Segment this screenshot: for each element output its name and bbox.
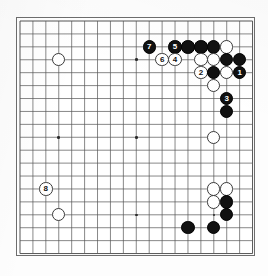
- go-stone-white[interactable]: [220, 40, 233, 53]
- star-point: [135, 136, 138, 139]
- go-stone-white[interactable]: [194, 53, 207, 66]
- go-stone-white[interactable]: [207, 182, 220, 195]
- go-board[interactable]: 75642138: [16, 17, 255, 256]
- go-stone-black[interactable]: [207, 40, 220, 53]
- go-stone-black[interactable]: [220, 195, 233, 208]
- go-stone-white-move-8[interactable]: 8: [39, 182, 52, 195]
- move-number-label: 3: [224, 94, 228, 102]
- star-point: [57, 136, 60, 139]
- move-number-label: 5: [173, 42, 177, 50]
- go-diagram-container: 75642138: [0, 0, 268, 276]
- move-number-label: 2: [199, 68, 203, 76]
- go-stone-white[interactable]: [220, 182, 233, 195]
- go-stone-white[interactable]: [207, 195, 220, 208]
- move-number-label: 1: [237, 68, 241, 76]
- star-point: [135, 58, 138, 61]
- go-stone-white-move-4[interactable]: 4: [168, 53, 181, 66]
- move-number-label: 4: [173, 55, 177, 63]
- star-point: [135, 214, 138, 217]
- star-point: [213, 214, 216, 217]
- go-stone-black-move-7[interactable]: 7: [143, 40, 156, 53]
- go-stone-black[interactable]: [181, 221, 194, 234]
- move-number-label: 7: [147, 42, 151, 50]
- move-number-label: 8: [44, 184, 48, 192]
- move-number-label: 6: [160, 55, 164, 63]
- go-stone-black[interactable]: [181, 40, 194, 53]
- go-stone-white-move-2[interactable]: 2: [194, 66, 207, 79]
- go-stone-black-move-5[interactable]: 5: [168, 40, 181, 53]
- go-stone-black[interactable]: [194, 40, 207, 53]
